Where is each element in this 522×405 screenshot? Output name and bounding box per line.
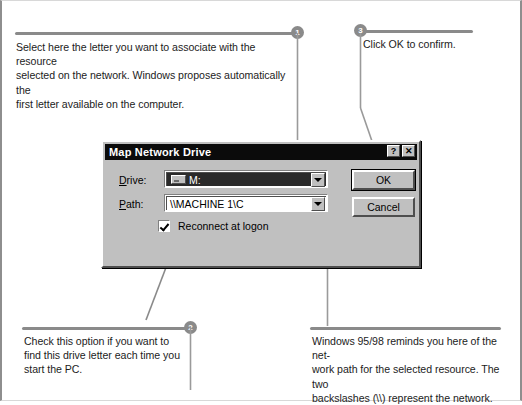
cancel-button[interactable]: Cancel — [352, 197, 415, 217]
ok-button[interactable]: OK — [352, 170, 415, 190]
reconnect-checkbox-row[interactable]: Reconnect at logon — [158, 220, 268, 232]
path-value[interactable]: \\MACHINE 1\C — [167, 198, 244, 210]
dialog-title: Map Network Drive — [105, 146, 211, 158]
drive-label-rest: rive: — [127, 174, 147, 186]
drive-icon — [171, 175, 186, 184]
map-network-drive-dialog: Map Network Drive ? ✕ Drive: M: Path: \\… — [101, 140, 421, 268]
callout-3-rule — [362, 30, 473, 33]
callout-3-text: Click OK to confirm. — [363, 37, 513, 51]
drive-combo-inner: M: — [166, 172, 326, 186]
callout-1-rule — [15, 32, 298, 35]
callout-4-text: Windows 95/98 reminds you here of the ne… — [312, 334, 512, 405]
callout-1-text: Select here the letter you want to assoc… — [16, 40, 296, 111]
callout-2-badge: 2 — [184, 321, 197, 334]
callout-3-badge: 3 — [354, 24, 367, 37]
callout-2-rule — [22, 327, 190, 330]
help-icon[interactable]: ? — [387, 145, 400, 157]
reconnect-checkbox-label: Reconnect at logon — [178, 220, 268, 232]
path-combo[interactable]: \\MACHINE 1\C — [164, 194, 328, 212]
drive-value: M: — [186, 174, 201, 186]
path-label-rest: ath: — [126, 198, 144, 210]
path-chevron-down-icon[interactable] — [311, 197, 325, 211]
drive-chevron-down-icon[interactable] — [311, 173, 325, 187]
callout-2-text: Check this option if you want to find th… — [24, 334, 204, 377]
path-label: Path: — [119, 198, 144, 210]
callout-4-rule — [310, 327, 501, 330]
callout-1-badge: 1 — [291, 26, 304, 39]
path-combo-inner: \\MACHINE 1\C — [166, 196, 326, 210]
titlebar-button-group: ? ✕ — [387, 145, 415, 157]
close-icon[interactable]: ✕ — [402, 145, 415, 157]
dialog-titlebar[interactable]: Map Network Drive ? ✕ — [105, 144, 417, 160]
reconnect-checkbox[interactable] — [158, 220, 170, 232]
drive-combo[interactable]: M: — [164, 170, 328, 188]
drive-label: Drive: — [119, 174, 146, 186]
